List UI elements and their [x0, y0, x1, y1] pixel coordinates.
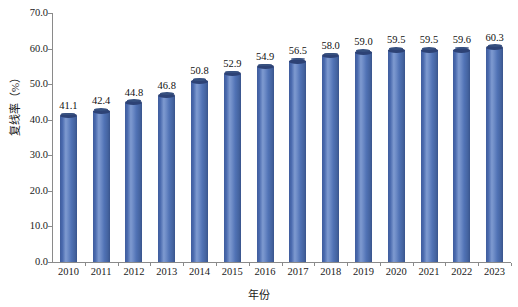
- x-axis-tick-label: 2022: [451, 266, 472, 277]
- bar-chart: 复线率（%） 0.010.020.030.040.050.060.070.0 4…: [0, 0, 518, 307]
- x-axis-tick-label: 2010: [58, 266, 79, 277]
- x-axis-tick-labels: 2010201120122013201420152016201720182019…: [0, 0, 518, 307]
- x-axis-tick-label: 2013: [156, 266, 177, 277]
- x-axis-tick-label: 2017: [287, 266, 308, 277]
- x-axis-tick-label: 2021: [419, 266, 440, 277]
- x-axis-tick-label: 2011: [91, 266, 112, 277]
- x-axis-tick-label: 2019: [353, 266, 374, 277]
- x-axis-tick-label: 2012: [123, 266, 144, 277]
- x-axis-tick-label: 2018: [320, 266, 341, 277]
- x-axis-tick-label: 2016: [255, 266, 276, 277]
- x-axis-tick-label: 2020: [386, 266, 407, 277]
- x-axis-title: 年份: [0, 286, 518, 302]
- x-axis-tick-label: 2014: [189, 266, 210, 277]
- x-axis-tick-label: 2015: [222, 266, 243, 277]
- x-axis-tick-label: 2023: [484, 266, 505, 277]
